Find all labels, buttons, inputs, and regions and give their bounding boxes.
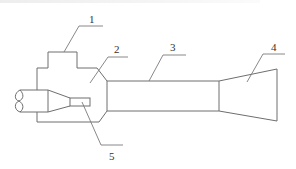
inlet-pipe (15, 90, 48, 112)
callout-label-3: 3 (170, 41, 176, 53)
mixing-tube (107, 81, 219, 111)
leader-line-3 (149, 55, 186, 81)
housing-outline-bottom (37, 111, 107, 122)
housing-outline-top (37, 52, 107, 90)
callout-label-5: 5 (109, 150, 115, 162)
callout-label-4: 4 (271, 41, 277, 53)
leader-line-2 (90, 57, 128, 83)
nozzle (48, 90, 90, 112)
diagram-svg: 1 2 3 4 5 (0, 0, 296, 169)
leader-line-1 (64, 26, 103, 52)
ejector-diagram: 1 2 3 4 5 (0, 0, 296, 169)
leader-line-5 (82, 102, 123, 145)
callout-label-2: 2 (114, 43, 120, 55)
callout-label-1: 1 (89, 13, 95, 25)
diffuser (219, 69, 277, 121)
leader-line-4 (247, 54, 285, 82)
